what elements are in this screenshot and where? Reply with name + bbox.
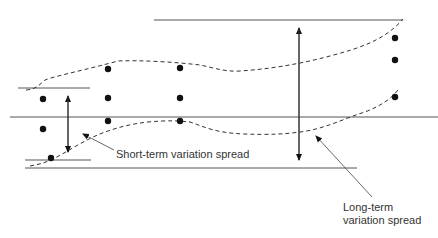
short-term-spread-label: Short-term variation spread	[116, 148, 249, 161]
short-term-leader-line	[83, 134, 114, 150]
data-point	[177, 65, 183, 71]
data-point	[392, 94, 398, 100]
long-term-spread-label-line2: variation spread	[343, 214, 421, 227]
data-point	[392, 35, 398, 41]
data-point	[48, 155, 54, 161]
data-point	[40, 126, 46, 132]
data-points	[40, 35, 398, 161]
data-point	[105, 95, 111, 101]
data-point	[105, 118, 111, 124]
data-point	[40, 96, 46, 102]
data-point	[177, 118, 183, 124]
long-term-spread-label-line1: Long-term	[343, 201, 393, 214]
data-point	[392, 57, 398, 63]
data-point	[105, 66, 111, 72]
long-term-leader-line	[316, 136, 372, 197]
data-point	[177, 95, 183, 101]
upper-envelope-curve	[26, 19, 403, 90]
